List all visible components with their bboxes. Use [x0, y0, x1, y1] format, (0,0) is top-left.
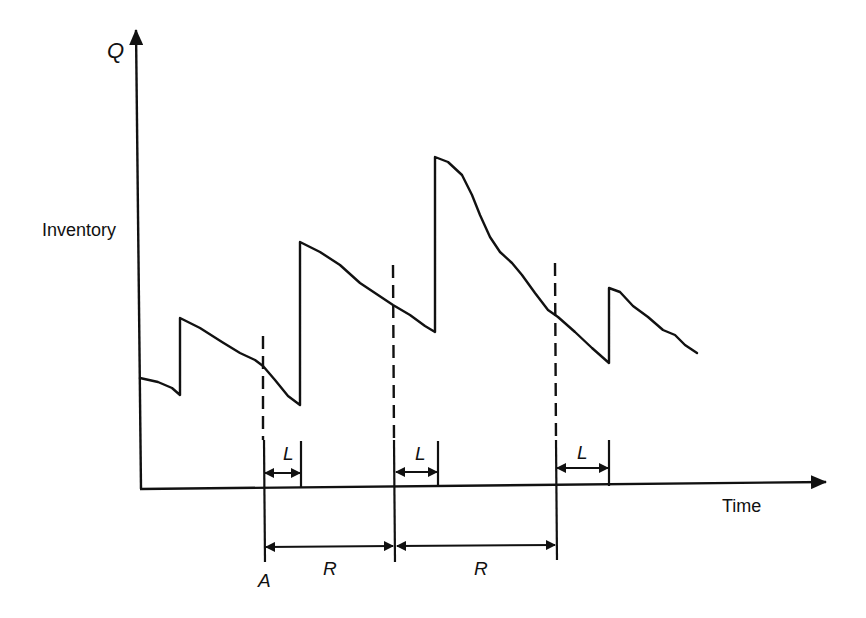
review-period-label-2: R	[474, 559, 488, 578]
inventory-level-curve	[140, 157, 697, 405]
y-axis-variable-label: Q	[107, 40, 124, 62]
review-line-solid-1	[264, 440, 265, 562]
review-line-solid-2	[394, 440, 395, 562]
lead-time-label-1: L	[283, 444, 294, 463]
lead-time-label-2: L	[415, 444, 426, 463]
review-point-label: A	[258, 571, 271, 590]
review-line-dashed-2	[393, 265, 394, 440]
lead-time-label-3: L	[577, 443, 588, 462]
review-line-solid-3	[556, 440, 557, 560]
review-period-label-1: R	[323, 559, 337, 578]
x-axis	[140, 482, 826, 489]
y-axis	[136, 30, 141, 489]
x-axis-title: Time	[722, 497, 761, 515]
review-line-dashed-3	[555, 263, 556, 440]
inventory-diagram	[0, 0, 866, 618]
review-period-arrow-2	[397, 545, 555, 546]
review-period-arrow-1	[266, 546, 393, 547]
y-axis-title: Inventory	[42, 221, 116, 239]
